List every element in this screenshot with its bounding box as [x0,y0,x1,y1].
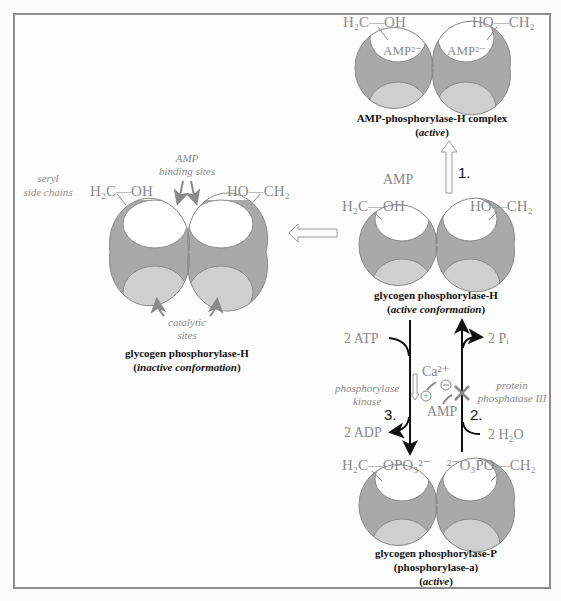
active-conformation-state: (active conformation) [387,303,485,316]
active-conformation-title: glycogen phosphorylase-H [374,289,498,301]
phospho-right-group: ²⁻O₃PO—CH₂ [447,457,536,473]
inactive-conformation-enzyme [106,193,270,318]
step1-number: 1. [458,164,471,181]
step2-output-pi: 2 Pᵢ [488,331,509,346]
inactive-left-group: H₂C—OH [90,183,153,199]
step3-output-adp: 2 ADP [344,425,382,440]
inactive-right-group: HO—CH₂ [227,183,290,199]
active-left-group: H₂C—OH [342,198,405,214]
step2-inhibitor-amp: AMP [427,404,458,419]
phosphorylated-subtitle: (phosphorylase-a) [394,561,479,574]
step1-up-arrow [441,141,457,193]
step3-number: 3. [384,406,397,423]
seryl-label-line1: seryl [37,172,58,184]
step2-input-water: 2 H₂O [488,427,524,442]
catalytic-label-line2: sites [177,329,197,341]
amp-pocket-label-left: AMP²⁻ [383,43,422,58]
amp-complex-state: (active) [415,126,449,139]
step1-amp-label: AMP [383,172,414,187]
kinase-activation-arrow [411,374,419,400]
pi-output-curve [463,337,480,348]
step2-number: 2. [470,406,483,423]
phosphatase-label-line2: phosphatase III [477,392,548,404]
phospho-left-group: H₂C—OPO₃²⁻ [342,457,431,473]
phosphorylase-regulation-diagram: H₂C—OH HO—CH₂ AMP²⁻ AMP²⁻ AMP-phosphoryl… [0,0,561,601]
activator-sign: + [423,391,428,401]
amp-site-arrow-left [178,181,183,202]
amp-pocket-label-right: AMP²⁻ [447,43,486,58]
amp-complex-left-group: H₂C—OH [343,14,406,30]
inactive-conformation-state: (inactive conformation) [133,361,241,374]
active-right-group: HO—CH₂ [470,198,533,214]
step3-activator-ca: Ca²⁺ [422,364,449,379]
kinase-label-line1: phosphorylase [334,382,399,394]
amp-inhibition-arrow [443,395,452,404]
water-input-curve [463,422,480,434]
amp-complex-right-group: HO—CH₂ [472,14,535,30]
ca-activation-arrow [427,382,436,390]
amp-site-arrow-right [191,181,196,202]
phosphorylated-state: (active) [419,575,453,588]
amp-binding-label-line2: binding sites [159,165,215,177]
catalytic-label-line1: catalytic [168,316,206,328]
atp-input-curve [389,338,409,356]
conformation-left-arrow [289,224,337,242]
amp-binding-label-line1: AMP [175,152,199,164]
phosphorylated-title: glycogen phosphorylase-P [375,547,497,559]
seryl-label-line2: side chains [23,186,72,198]
step3-input-atp: 2 ATP [344,331,379,346]
phosphatase-label-line1: protein [495,379,528,391]
amp-complex-title: AMP-phosphorylase-H complex [357,112,508,124]
inactive-conformation-title: glycogen phosphorylase-H [125,347,249,359]
kinase-label-line2: kinase [353,395,381,407]
